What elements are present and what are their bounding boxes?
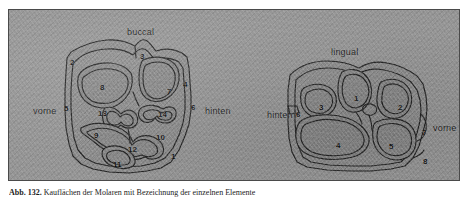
right-tooth-number-2: 2 [398,104,402,112]
left-tooth-number-9: 9 [94,132,98,140]
left-tooth-number-10: 10 [156,134,165,142]
left-tooth-number-11: 11 [113,161,121,169]
right-tooth-number-1: 1 [354,95,358,103]
figure-container: buccal vorne hinten lingual 1 2 3 4 5 6 … [0,0,470,205]
left-tooth-number-2: 2 [70,59,74,67]
right-tooth-label-hinten: hinten [267,110,293,120]
left-tooth-number-5: 5 [64,105,68,113]
figure-plate: buccal vorne hinten lingual 1 2 3 4 5 6 … [8,9,460,181]
left-tooth-label-hinten: hinten [205,106,231,116]
left-tooth-number-8: 8 [100,84,104,92]
right-tooth-label-vorne: vorne [433,123,457,133]
left-tooth-number-7: 7 [167,88,171,96]
right-tooth-number-4: 4 [336,142,340,150]
right-tooth-drawing [9,10,460,181]
left-tooth-number-4: 4 [183,81,187,89]
figure-caption-label: Abb. 132. [9,188,42,197]
right-tooth-number-6: 6 [296,111,300,119]
left-tooth-label-buccal: buccal [127,27,154,37]
right-tooth-number-8: 8 [423,158,427,166]
right-tooth-number-3: 3 [319,104,323,112]
left-tooth-number-13: 13 [98,110,107,118]
right-tooth-number-5: 5 [389,143,393,151]
left-tooth-number-6: 6 [191,104,195,112]
left-tooth-number-14: 14 [158,111,167,119]
left-tooth-number-3: 3 [140,53,144,61]
figure-caption-text: Kauflächen der Molaren mit Bezeichnung d… [44,188,256,197]
figure-caption: Abb. 132. Kauflächen der Molaren mit Bez… [9,188,461,198]
right-tooth-number-7: 7 [422,129,426,137]
right-tooth-label-lingual: lingual [331,47,358,57]
left-tooth-label-vorne: vorne [33,106,57,116]
left-tooth-number-1: 1 [171,153,175,161]
left-tooth-number-12: 12 [128,146,137,154]
